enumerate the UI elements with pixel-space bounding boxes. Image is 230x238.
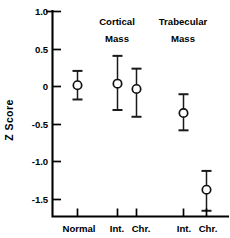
x-tick-label-trabecular-int: Int. <box>177 223 191 234</box>
z-score-error-bar-chart: 1.0 0.5 0 -0.5 -1.0 -1.5 Z Score Cortica… <box>0 0 230 238</box>
data-series-layer <box>73 56 212 211</box>
data-point-marker <box>179 109 187 117</box>
x-tick-label-cortical-int: Int. <box>110 223 124 234</box>
data-point-group <box>113 56 123 110</box>
data-point-marker <box>113 79 121 87</box>
group-header-cortical-mass: Cortical Mass <box>99 16 135 44</box>
x-tick-label-cortical-chr: Chr. <box>132 223 151 234</box>
y-tick-label--1.0: -1.0 <box>32 156 48 167</box>
x-tick-label-normal: Normal <box>62 223 95 234</box>
y-tick-label--1.5: -1.5 <box>32 194 49 205</box>
group-header-trabecular-line2: Mass <box>171 33 195 44</box>
axis-spines <box>53 11 229 217</box>
data-point-group <box>179 94 189 130</box>
x-axis-tick-labels: Normal Int. Chr. Int. Chr. <box>62 223 217 234</box>
data-point-marker <box>202 186 210 194</box>
y-tick-label-1.0: 1.0 <box>35 6 48 17</box>
y-axis-tick-labels: 1.0 0.5 0 -0.5 -1.0 -1.5 <box>32 6 49 205</box>
y-axis-ticks <box>53 12 61 200</box>
data-point-group <box>73 71 83 100</box>
data-point-group <box>132 69 142 117</box>
group-header-cortical-line1: Cortical <box>99 16 135 27</box>
x-tick-label-trabecular-chr: Chr. <box>199 223 218 234</box>
data-point-marker <box>132 85 140 93</box>
data-point-marker <box>73 81 81 89</box>
y-tick-label--0.5: -0.5 <box>32 119 49 130</box>
group-header-trabecular-line1: Trabecular <box>159 16 208 27</box>
y-tick-label-0.5: 0.5 <box>35 44 49 55</box>
group-header-cortical-line2: Mass <box>105 33 129 44</box>
group-header-trabecular-mass: Trabecular Mass <box>159 16 208 44</box>
y-tick-label-0: 0 <box>43 81 48 92</box>
y-axis-label: Z Score <box>3 99 15 140</box>
chart-figure: 1.0 0.5 0 -0.5 -1.0 -1.5 Z Score Cortica… <box>0 0 230 238</box>
x-axis-ticks <box>78 209 207 217</box>
data-point-group <box>202 171 212 211</box>
